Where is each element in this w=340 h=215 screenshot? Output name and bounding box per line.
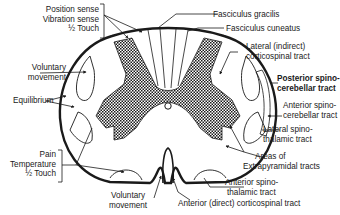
label-lat-cs-1: Lateral (indirect) xyxy=(246,42,310,52)
label-half-touch: ½ Touch xyxy=(43,24,99,34)
label-post-sc-1: Posterior spino- xyxy=(277,74,340,84)
label-temperature: Temperature xyxy=(10,160,56,170)
label-voluntary-movement-bottom: Voluntary movement xyxy=(100,191,156,210)
label-vibration-sense: Vibration sense xyxy=(43,15,99,25)
label-voluntary: Voluntary xyxy=(28,63,66,73)
label-posterior-spinocerebellar: Posterior spino- cerebellar tract xyxy=(277,74,340,93)
label-voluntary-b: Voluntary xyxy=(100,191,156,201)
label-lat-st-2: thalamic tract xyxy=(263,135,313,145)
label-post-sc-2: cerebellar tract xyxy=(277,84,340,94)
label-lateral-corticospinal: Lateral (indirect) corticospinal tract xyxy=(246,42,310,61)
gray-matter xyxy=(96,38,240,140)
label-lat-st-1: Lateral spino- xyxy=(263,125,313,135)
label-movement: movement xyxy=(28,73,66,83)
label-lat-cs-2: corticospinal tract xyxy=(246,52,310,62)
label-extrapyramidal: Areas of Extrapyramidal tracts xyxy=(243,152,320,171)
label-movement-b: movement xyxy=(100,201,156,211)
label-voluntary-movement-left: Voluntary movement xyxy=(28,63,66,82)
label-anterior-corticospinal: Anterior (direct) corticospinal tract xyxy=(178,199,300,209)
label-extra-2: Extrapyramidal tracts xyxy=(243,162,320,172)
label-anterior-spinocerebellar: Anterior spino- cerebellar tract xyxy=(283,101,337,120)
label-half-touch-2: ½ Touch xyxy=(10,169,56,179)
label-ant-st-2: thalamic tract xyxy=(225,188,278,198)
label-ant-sc-1: Anterior spino- xyxy=(283,101,337,111)
label-ant-st-1: Anterior spino- xyxy=(225,178,278,188)
label-pain: Pain xyxy=(10,150,56,160)
label-dorsal-sensations: Position sense Vibration sense ½ Touch xyxy=(43,5,99,34)
label-pain-group: Pain Temperature ½ Touch xyxy=(10,150,56,179)
label-anterior-spinothalamic: Anterior spino- thalamic tract xyxy=(225,178,278,197)
label-extra-1: Areas of xyxy=(243,152,320,162)
label-position-sense: Position sense xyxy=(43,5,99,15)
label-ant-sc-2: cerebellar tract xyxy=(283,111,337,121)
label-fasciculus-cuneatus: Fasciculus cuneatus xyxy=(226,24,300,34)
label-equilibrium: Equilibrium xyxy=(13,96,54,106)
label-fasciculus-gracilis: Fasciculus gracilis xyxy=(213,10,279,20)
label-lateral-spinothalamic: Lateral spino- thalamic tract xyxy=(263,125,313,144)
